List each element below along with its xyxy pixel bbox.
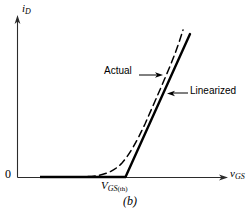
- linearized-curve-label: Linearized: [190, 86, 236, 96]
- linearized-slope-segment: [126, 34, 191, 177]
- mosfet-transfer-characteristic-figure: iD vGS 0 VGS(th) Actual Linearized (b): [0, 0, 252, 215]
- threshold-label-subscript: GS: [108, 184, 118, 193]
- figure-caption: (b): [123, 195, 137, 207]
- x-axis-label-subscript: GS: [235, 172, 245, 181]
- threshold-voltage-label: VGS(th): [101, 180, 128, 193]
- linearized-curve: [40, 34, 190, 177]
- y-axis-label: iD: [22, 3, 31, 16]
- threshold-label-var: V: [101, 179, 108, 191]
- actual-curve-label: Actual: [104, 66, 132, 76]
- axes-group: [15, 15, 228, 180]
- threshold-label-paren: (th): [118, 185, 128, 193]
- origin-label: 0: [5, 168, 11, 180]
- y-axis-label-subscript: D: [25, 7, 31, 16]
- x-axis-label: vGS: [230, 168, 245, 181]
